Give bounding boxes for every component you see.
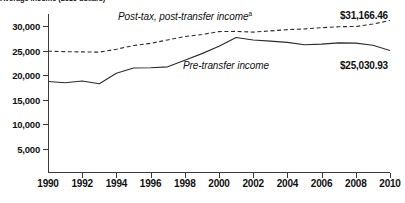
x-axis-tick-mark [322, 173, 323, 178]
x-axis-tick-label: 1992 [71, 178, 92, 189]
x-axis-tick-mark [82, 173, 83, 178]
series-line-post-tax [48, 21, 390, 53]
plot-lines [48, 14, 390, 173]
y-axis-tick-label: 15,000 [0, 94, 40, 105]
x-axis-tick-label: 2010 [379, 178, 400, 189]
x-axis-tick-label: 1996 [140, 178, 161, 189]
income-line-chart: Average income (2010 dollars) 5,00010,00… [0, 0, 405, 203]
x-axis-tick-label: 2000 [208, 178, 229, 189]
y-axis-tick-label: 20,000 [0, 70, 40, 81]
x-axis-tick-label: 2008 [345, 178, 366, 189]
x-axis-tick-mark [185, 173, 186, 178]
x-axis-tick-label: 2004 [277, 178, 298, 189]
series-label-pre-transfer: Pre-transfer income [183, 60, 269, 71]
y-axis-tick-label: 10,000 [0, 119, 40, 130]
y-axis-tick-label: 25,000 [0, 45, 40, 56]
series-label-post-tax: Post-tax, post-transfer incomea [118, 10, 252, 22]
x-axis-tick-label: 1994 [106, 178, 127, 189]
x-axis-tick-label: 2002 [242, 178, 263, 189]
x-axis-tick-label: 2006 [311, 178, 332, 189]
x-axis-tick-mark [356, 173, 357, 178]
x-axis-tick-mark [219, 173, 220, 178]
x-axis-tick-mark [253, 173, 254, 178]
y-axis-tick-label: 5,000 [0, 143, 40, 154]
x-axis-tick-label: 1998 [174, 178, 195, 189]
end-value-post-tax: $31,166.46 [300, 10, 388, 21]
x-axis-tick-mark [116, 173, 117, 178]
x-axis-tick-mark [287, 173, 288, 178]
footnote-marker-a: a [248, 10, 252, 17]
x-axis-tick-mark [151, 173, 152, 178]
chart-title: Average income (2010 dollars) [0, 0, 105, 3]
y-axis-tick-label: 30,000 [0, 21, 40, 32]
end-value-pre-transfer: $25,030.93 [300, 60, 388, 71]
x-axis-tick-label: 1990 [37, 178, 58, 189]
x-axis-tick-mark [390, 173, 391, 178]
series-label-post-tax-text: Post-tax, post-transfer income [118, 11, 248, 22]
